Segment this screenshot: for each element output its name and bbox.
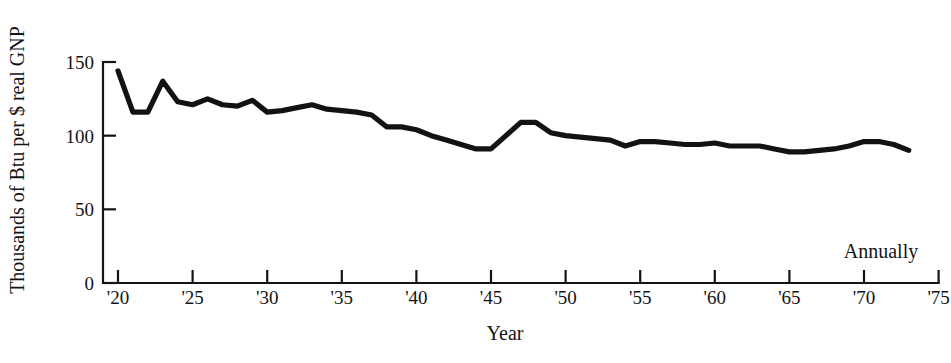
y-tick-label: 50 xyxy=(75,199,94,220)
x-tick-label: '25 xyxy=(181,287,203,308)
x-tick-label: '20 xyxy=(107,287,129,308)
y-axis-title-group: Thousands of Btu per $ real GNP xyxy=(6,26,29,294)
y-tick-label: 100 xyxy=(66,126,95,147)
data-series-line xyxy=(118,71,909,152)
x-tick-label: '35 xyxy=(331,287,353,308)
x-tick-label: '40 xyxy=(405,287,427,308)
line-chart: Thousands of Btu per $ real GNP 05010015… xyxy=(0,0,951,363)
y-axis-title: Thousands of Btu per $ real GNP xyxy=(6,26,29,294)
axis-lines xyxy=(103,62,939,283)
x-tick-label: '65 xyxy=(778,287,800,308)
x-tick-label: '70 xyxy=(853,287,875,308)
x-axis-title: Year xyxy=(487,322,524,344)
annually-annotation: Annually xyxy=(844,240,918,263)
x-tick-label: '45 xyxy=(480,287,502,308)
y-axis-ticks: 050100150 xyxy=(66,52,117,294)
y-tick-label: 0 xyxy=(85,273,95,294)
chart-page: Thousands of Btu per $ real GNP 05010015… xyxy=(0,0,951,363)
x-tick-label: '60 xyxy=(704,287,726,308)
x-tick-label: '75 xyxy=(927,287,949,308)
x-tick-label: '50 xyxy=(554,287,576,308)
x-tick-label: '55 xyxy=(629,287,651,308)
x-tick-label: '30 xyxy=(256,287,278,308)
x-axis-ticks: '20'25'30'35'40'45'50'55'60'65'70'75 xyxy=(107,270,950,308)
y-tick-label: 150 xyxy=(66,52,95,73)
